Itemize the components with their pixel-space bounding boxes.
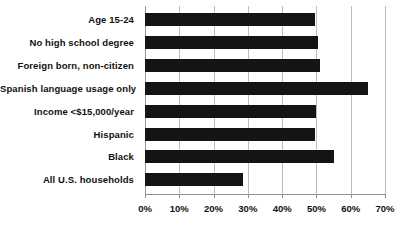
category-label: All U.S. households <box>0 173 139 186</box>
x-tick-mark <box>248 194 249 198</box>
gridline-20% <box>214 6 215 194</box>
gridline-70% <box>385 6 386 194</box>
category-label: Age 15-24 <box>0 13 139 26</box>
category-label: Hispanic <box>0 128 139 141</box>
bar <box>145 59 320 72</box>
x-tick-mark <box>282 194 283 198</box>
bar-chart: Age 15-24No high school degreeForeign bo… <box>0 0 415 233</box>
category-label: Spanish language usage only <box>0 82 139 95</box>
gridline-10% <box>179 6 180 194</box>
x-tick-mark <box>145 194 146 198</box>
x-tick-mark <box>385 194 386 198</box>
bar <box>145 105 316 118</box>
gridline-30% <box>248 6 249 194</box>
category-axis: Age 15-24No high school degreeForeign bo… <box>0 13 139 193</box>
category-label: No high school degree <box>0 36 139 49</box>
category-label: Black <box>0 150 139 163</box>
bar <box>145 13 315 26</box>
gridline-40% <box>282 6 283 194</box>
bar <box>145 36 318 49</box>
bar <box>145 82 368 95</box>
x-tick-mark <box>351 194 352 198</box>
category-label: Foreign born, non-citizen <box>0 59 139 72</box>
x-tick-mark <box>316 194 317 198</box>
bar <box>145 128 315 141</box>
bar <box>145 150 334 163</box>
gridline-0% <box>145 6 146 194</box>
x-tick-label: 70% <box>365 203 405 214</box>
category-label: Income <$15,000/year <box>0 105 139 118</box>
gridline-60% <box>351 6 352 194</box>
bar <box>145 173 243 186</box>
x-tick-mark <box>214 194 215 198</box>
x-tick-mark <box>179 194 180 198</box>
plot-area <box>145 6 385 194</box>
gridline-50% <box>316 6 317 194</box>
